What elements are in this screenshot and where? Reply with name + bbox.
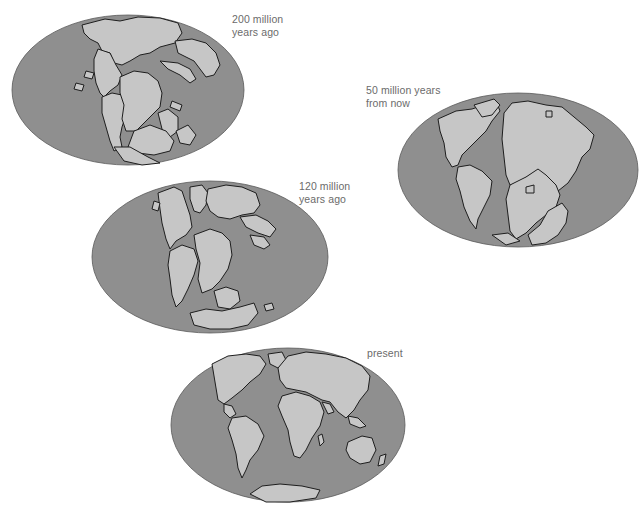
world-map-200-million-years-ago <box>10 13 250 169</box>
world-map-120-million-years-ago <box>90 179 332 337</box>
world-map-present <box>170 346 408 506</box>
world-map-50-million-years-from-now <box>396 91 642 251</box>
